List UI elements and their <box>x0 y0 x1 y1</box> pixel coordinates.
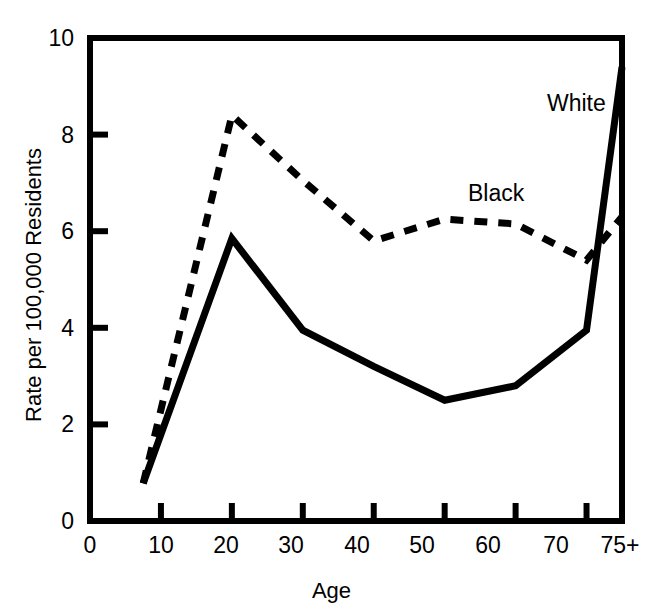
x-tick-label-20: 20 <box>213 532 239 559</box>
x-tick-label-0: 0 <box>84 532 97 559</box>
x-tick-label-50: 50 <box>409 532 435 559</box>
x-tick-label-40: 40 <box>344 532 370 559</box>
y-axis-title: Rate per 100,000 Residents <box>21 75 47 495</box>
y-tick-label-0: 0 <box>42 508 74 535</box>
series-annotation-white: White <box>547 90 606 117</box>
y-tick-label-10: 10 <box>28 25 74 52</box>
chart-container: 0 2 4 6 8 10 0 10 20 30 40 50 60 70 75+ … <box>0 0 663 616</box>
series-annotation-black: Black <box>468 180 524 207</box>
x-tick-label-60: 60 <box>475 532 501 559</box>
x-axis-title: Age <box>0 578 663 604</box>
x-tick-label-70: 70 <box>543 532 569 559</box>
x-tick-label-30: 30 <box>278 532 304 559</box>
x-tick-label-10: 10 <box>148 532 174 559</box>
x-tick-label-75plus: 75+ <box>600 532 639 559</box>
